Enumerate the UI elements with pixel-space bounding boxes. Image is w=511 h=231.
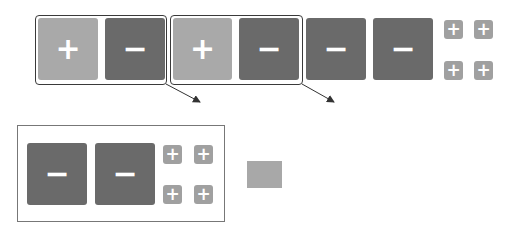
negative-tile: − — [27, 143, 87, 205]
arrow-2 — [302, 84, 334, 102]
negative-tile: − — [95, 143, 155, 205]
small-positive-tile: + — [163, 185, 182, 204]
gray-rectangle — [247, 161, 282, 188]
small-positive-tile: + — [163, 145, 182, 164]
arrow-1 — [166, 84, 200, 102]
small-positive-tile: + — [194, 145, 213, 164]
small-positive-tile: + — [194, 185, 213, 204]
